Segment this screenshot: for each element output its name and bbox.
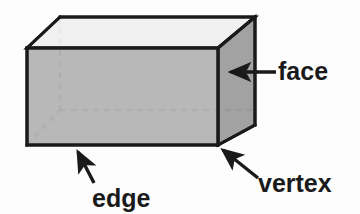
edge-pointer (78, 152, 94, 183)
front-face (27, 48, 218, 145)
diagram-canvas: face vertex edge (0, 0, 360, 214)
label-vertex: vertex (258, 169, 332, 197)
label-edge: edge (92, 184, 150, 212)
prism-diagram-svg: face vertex edge (0, 0, 360, 214)
label-face: face (278, 57, 328, 85)
vertex-pointer (223, 150, 258, 178)
top-face (27, 17, 255, 48)
